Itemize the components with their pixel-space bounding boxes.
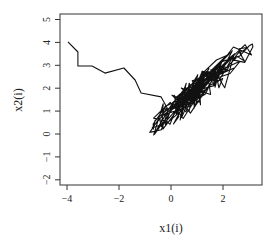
chart: −4−202 −2−1012345 x1(i) x2(i) [0, 0, 276, 243]
x-tick-label: −2 [114, 193, 125, 204]
x-tick-label: 2 [221, 193, 226, 204]
y-tick-label: 3 [41, 63, 52, 68]
x-axis-label: x1(i) [159, 221, 182, 235]
plot-area-frame [60, 14, 262, 185]
x-tick-label: 0 [169, 193, 174, 204]
y-tick-label: 0 [41, 132, 52, 137]
y-tick-label: −2 [41, 174, 52, 185]
y-tick-label: −1 [41, 152, 52, 163]
y-axis-label: x2(i) [11, 88, 25, 111]
y-tick-label: 1 [41, 109, 52, 114]
x-tick-label: −4 [62, 193, 73, 204]
trajectory-line [68, 42, 253, 135]
y-tick-label: 5 [41, 17, 52, 22]
trajectory-polyline [68, 42, 253, 135]
y-axis: −2−1012345 [41, 17, 60, 185]
x-axis: −4−202 [62, 185, 226, 204]
y-tick-label: 2 [41, 86, 52, 91]
y-tick-label: 4 [41, 40, 52, 45]
